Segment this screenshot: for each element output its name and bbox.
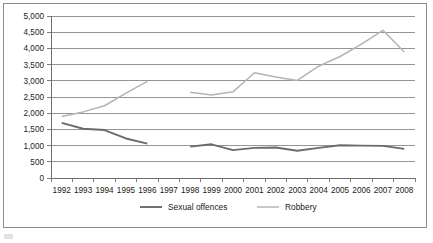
x-tick-label: 2001 [245, 186, 264, 195]
series-line-sexual-offences [62, 123, 148, 144]
x-tick-label: 2003 [288, 186, 307, 195]
x-tick-label: 2000 [224, 186, 243, 195]
x-tick-label: 1999 [202, 186, 221, 195]
x-tick-label: 2007 [374, 186, 393, 195]
x-tick-label: 2006 [352, 186, 371, 195]
y-axis [47, 16, 51, 178]
chart-frame: 05001,0001,5002,0002,5003,0003,5004,0004… [3, 3, 427, 228]
x-tick-label: 2008 [395, 186, 414, 195]
legend-label: Sexual offences [168, 202, 227, 212]
x-tick-labels: 1992199319941995199619971998199920002001… [53, 186, 414, 195]
x-tick-label: 2002 [267, 186, 286, 195]
page-artifact [4, 234, 13, 239]
legend-label: Robbery [285, 202, 317, 212]
x-tick-label: 1994 [95, 186, 114, 195]
y-tick-labels: 05001,0001,5002,0002,5003,0003,5004,0004… [24, 12, 45, 183]
series-line-robbery [190, 30, 404, 95]
x-tick-label: 2005 [331, 186, 350, 195]
gridlines [51, 16, 415, 178]
series-line-robbery [62, 81, 148, 116]
y-tick-label: 3,000 [24, 77, 45, 86]
y-tick-label: 5,000 [24, 12, 45, 21]
y-tick-label: 2,000 [24, 109, 45, 118]
y-tick-label: 4,500 [24, 28, 45, 37]
x-tick-label: 1997 [160, 186, 179, 195]
y-tick-label: 500 [30, 158, 44, 167]
y-tick-label: 0 [39, 174, 44, 183]
x-tick-label: 1996 [138, 186, 157, 195]
x-tick-label: 1998 [181, 186, 200, 195]
x-axis [51, 178, 415, 182]
y-tick-label: 3,500 [24, 61, 45, 70]
y-tick-label: 1,500 [24, 125, 45, 134]
y-tick-label: 2,500 [24, 93, 45, 102]
x-tick-label: 1992 [53, 186, 72, 195]
line-chart: 05001,0001,5002,0002,5003,0003,5004,0004… [4, 4, 426, 227]
y-tick-label: 1,000 [24, 142, 45, 151]
y-tick-label: 4,000 [24, 44, 45, 53]
x-tick-label: 1993 [74, 186, 93, 195]
chart-legend: Sexual offencesRobbery [140, 202, 317, 212]
x-tick-label: 2004 [310, 186, 329, 195]
x-tick-label: 1995 [117, 186, 136, 195]
